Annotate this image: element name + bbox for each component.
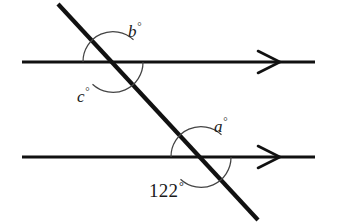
- angle-label-122-value: 122: [149, 180, 178, 201]
- angle-label-b-degree: °: [137, 20, 142, 32]
- angle-label-c: c°: [77, 86, 90, 105]
- geometry-diagram: b° c° a° 122°: [0, 0, 338, 224]
- angle-label-a-symbol: a: [214, 117, 223, 136]
- angle-label-c-degree: °: [85, 85, 90, 97]
- angle-label-b-symbol: b: [128, 22, 137, 41]
- angle-label-a: a°: [214, 116, 228, 135]
- angle-label-c-symbol: c: [77, 87, 85, 106]
- angle-label-122: 122°: [149, 180, 184, 200]
- angle-label-a-degree: °: [223, 115, 228, 127]
- angle-label-b: b°: [128, 21, 142, 40]
- angle-label-122-degree: °: [179, 179, 184, 193]
